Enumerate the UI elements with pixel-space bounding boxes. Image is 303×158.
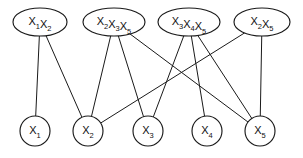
graph-edge bbox=[101, 33, 245, 123]
graph-edge bbox=[36, 36, 40, 116]
clause-node[interactable]: X2X3X5 bbox=[83, 8, 145, 36]
graph-edge bbox=[191, 36, 204, 116]
graph-edge bbox=[260, 36, 261, 116]
clause-node[interactable]: X3X4X5 bbox=[158, 8, 220, 36]
node-layer: X1X2X2X3X5X3X4X5X2X5X1X2X3X4X5 bbox=[13, 8, 290, 146]
variable-node[interactable]: X3 bbox=[133, 116, 163, 146]
clause-node[interactable]: X2X5 bbox=[234, 8, 290, 36]
graph-edge bbox=[198, 35, 252, 118]
variable-node[interactable]: X1 bbox=[20, 116, 50, 146]
graph-edge bbox=[153, 36, 184, 117]
edge-layer bbox=[36, 33, 262, 123]
graph-edge bbox=[91, 36, 110, 116]
graph-edge bbox=[130, 34, 248, 122]
variable-node[interactable]: X5 bbox=[245, 116, 275, 146]
variable-node[interactable]: X2 bbox=[73, 116, 103, 146]
clause-node[interactable]: X1X2 bbox=[13, 8, 67, 36]
variable-node[interactable]: X4 bbox=[192, 116, 222, 146]
graph-edge bbox=[46, 36, 82, 118]
graph-canvas: X1X2X2X3X5X3X4X5X2X5X1X2X3X4X5 bbox=[0, 0, 303, 158]
bipartite-graph-figure: X1X2X2X3X5X3X4X5X2X5X1X2X3X4X5 bbox=[0, 0, 303, 158]
